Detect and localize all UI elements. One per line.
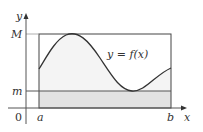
x-axis-arrow-icon	[181, 106, 187, 111]
x-axis-label: x	[184, 111, 191, 124]
origin-label: 0	[15, 111, 22, 124]
curve-label: y = f(x)	[106, 48, 148, 61]
lower-rectangle	[39, 91, 171, 108]
right-bound-label: b	[167, 111, 174, 124]
y-axis-label: y	[15, 10, 23, 23]
max-label: M	[10, 28, 23, 41]
left-bound-label: a	[37, 111, 44, 124]
min-label: m	[12, 85, 22, 98]
y-axis-arrow-icon	[24, 13, 29, 19]
integral-bounds-diagram: y M m 0 a b x y = f(x)	[0, 0, 203, 132]
